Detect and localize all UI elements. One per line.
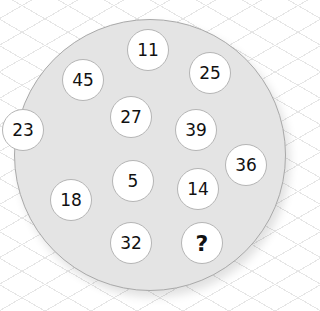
number-circle-45: 45 bbox=[62, 59, 104, 101]
number-circle-27: 27 bbox=[110, 96, 152, 138]
number-circle-23: 23 bbox=[2, 109, 44, 151]
number-circle-25: 25 bbox=[189, 52, 231, 94]
number-circle-11: 11 bbox=[127, 29, 169, 71]
number-circle-39: 39 bbox=[175, 109, 217, 151]
number-circle-32: 32 bbox=[110, 222, 152, 264]
number-circle-14: 14 bbox=[177, 168, 219, 210]
missing-number-circle: ? bbox=[181, 222, 223, 264]
number-circle-36: 36 bbox=[225, 144, 267, 186]
number-circle-18: 18 bbox=[50, 179, 92, 221]
number-circle-5: 5 bbox=[112, 160, 154, 202]
